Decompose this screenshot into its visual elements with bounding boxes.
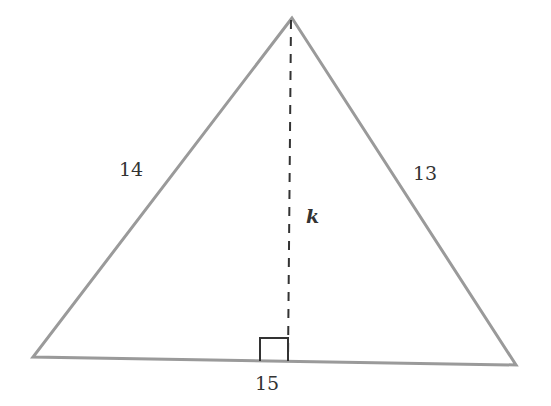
altitude-dashed-line [288, 20, 291, 361]
triangle [33, 18, 516, 365]
base-label: 15 [255, 374, 279, 393]
left-side-label: 14 [119, 160, 143, 179]
altitude-label: k [306, 207, 319, 226]
right-angle-marker [260, 338, 288, 361]
triangle-diagram [0, 0, 551, 406]
right-side-label: 13 [413, 164, 437, 183]
